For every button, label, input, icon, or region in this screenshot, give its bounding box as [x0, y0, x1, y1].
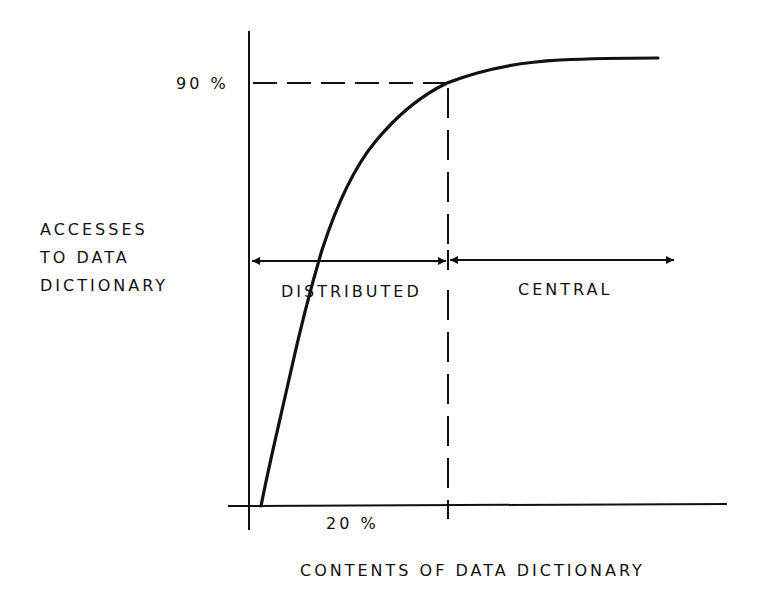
x-tick-label-20: 20 %	[326, 516, 379, 532]
pareto-curve-diagram	[0, 0, 758, 605]
y-axis-label-line1: ACCESSES	[40, 216, 168, 244]
x-axis	[228, 504, 727, 506]
region-label-distributed: DISTRIBUTED	[281, 284, 422, 300]
y-tick-label-90: 90 %	[176, 76, 229, 92]
y-axis-label-line2: TO DATA	[40, 244, 168, 272]
x-axis-label: CONTENTS OF DATA DICTIONARY	[300, 563, 645, 579]
region-label-central: CENTRAL	[518, 282, 612, 298]
y-axis-label-line3: DICTIONARY	[40, 272, 168, 300]
y-axis-label: ACCESSES TO DATA DICTIONARY	[40, 216, 168, 300]
